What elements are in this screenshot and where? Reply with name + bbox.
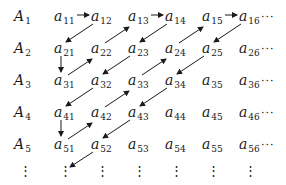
arrow-a42-a33 [105,91,129,107]
arrow-a52-next [70,152,93,167]
arrow-a16-a25 [214,24,241,42]
arrow-a14-a23 [140,24,167,42]
arrow-a24-a15 [179,27,203,43]
arrow-a23-a32 [103,56,130,74]
arrow-a34-a43 [140,88,167,106]
arrow-a22-a13 [105,27,129,43]
arrow-a25-a34 [177,56,204,74]
arrow-a33-a24 [142,59,166,75]
arrow-a32-a41 [66,88,93,106]
arrow-a43-a52 [103,120,130,138]
arrow-a31-a22 [68,59,92,75]
arrow-a12-a21 [66,24,93,42]
arrow-a51-a42 [68,123,92,139]
zigzag-arrows [0,0,286,185]
